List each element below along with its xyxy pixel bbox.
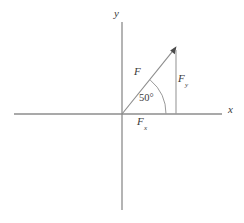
y-axis-label: y (114, 8, 119, 19)
force-vector-label: F (134, 66, 141, 77)
fx-label-subscript: x (144, 124, 147, 132)
fy-component-label: Fy (178, 73, 188, 87)
angle-label: 50° (139, 93, 154, 104)
x-axis-label: x (228, 104, 233, 115)
fx-component-label: Fx (137, 116, 147, 130)
fy-label-subscript: y (185, 81, 188, 89)
diagram-canvas (0, 0, 244, 223)
force-vector-diagram: y x F Fy Fx 50° (0, 0, 244, 223)
fx-label-base: F (137, 115, 144, 127)
fy-label-base: F (178, 72, 185, 84)
